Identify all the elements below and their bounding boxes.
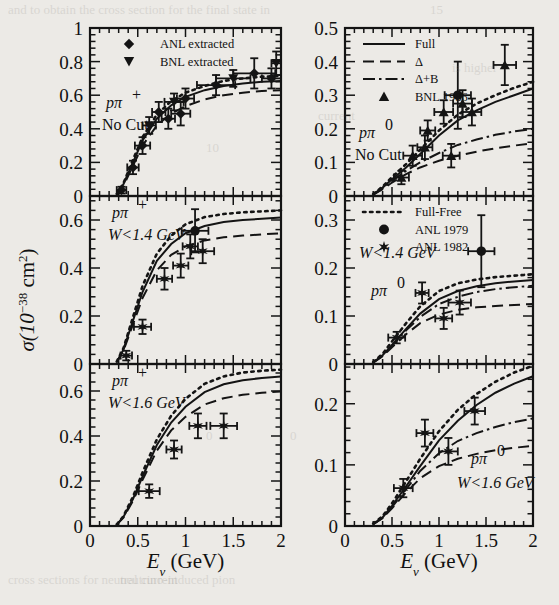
panel-channel-sup: 0: [497, 442, 505, 459]
data-point: [189, 414, 206, 439]
y-tick-label: 0.4: [59, 258, 83, 279]
y-tick-label: 0.2: [59, 471, 83, 492]
y-axis-label: σ(10−38 cm2): [15, 248, 40, 351]
y-tick-label: 0.4: [59, 426, 83, 447]
data-point: [117, 185, 127, 195]
x-tick-label: 0.5: [380, 530, 404, 551]
x-tick-label: 1.5: [221, 530, 245, 551]
data-point: [157, 268, 172, 290]
legend-entry: ANL extracted: [124, 37, 235, 51]
panel-channel-sup: +: [132, 86, 141, 103]
curve-full: [373, 280, 533, 363]
y-tick-label: 0.2: [314, 258, 338, 279]
data-point: [166, 441, 181, 459]
panel-cut-label: W<1.4 GeV: [108, 226, 187, 243]
curve--b: [373, 286, 533, 363]
data-point: [177, 88, 194, 108]
y-tick-label: 0: [74, 354, 84, 375]
y-tick-label: 0.3: [314, 85, 338, 106]
y-tick-label: 0: [74, 516, 84, 537]
y-tick-label: 0.6: [59, 85, 83, 106]
y-tick-label: 0: [329, 186, 339, 207]
y-tick-label: 0.3: [314, 210, 338, 231]
x-axis-label: Eν (GeV): [146, 549, 225, 579]
x-tick-label: 0.5: [126, 530, 150, 551]
data-point: [494, 45, 517, 85]
data-point: [420, 120, 435, 140]
panel-channel-label: pπ: [470, 450, 488, 468]
legend-entry: Δ: [363, 55, 423, 69]
y-tick-label: 0.2: [59, 306, 83, 327]
data-point: [443, 144, 460, 168]
legend-entry: ANL 1979: [379, 223, 468, 237]
y-tick-label: 0: [74, 186, 84, 207]
legend-label: Full: [415, 37, 436, 51]
legend-label: Δ+B: [415, 72, 438, 86]
panel-channel-sup: +: [138, 364, 147, 381]
y-tick-label: 0.8: [59, 52, 83, 73]
panel-channel-sup: 0: [397, 274, 405, 291]
marker-circle: [190, 226, 200, 236]
x-tick-label: 0: [85, 530, 95, 551]
cross-section-figure: 00.20.40.60.81ANL extractedBNL extracted…: [0, 0, 559, 605]
curve--b: [373, 418, 533, 524]
panel-p-pi-plus-w16: 00.20.40.600.511.52pπ+W<1.6 GeV: [59, 364, 286, 551]
y-tick-label: 0.5: [314, 18, 338, 39]
y-tick-label: 0.2: [314, 119, 338, 140]
curve--: [117, 391, 281, 524]
panel-p-pi-zero-w14: 00.10.20.3Full-FreeANL 1979ANL 1982W<1.4…: [314, 196, 533, 375]
x-tick-label: 0: [340, 530, 350, 551]
legend-label: Full-Free: [415, 205, 462, 219]
legend-entry: Full: [363, 37, 436, 51]
y-tick-label: 0.6: [59, 381, 83, 402]
panel-p-pi-zero-w16: 00.10.200.511.52pπ0W<1.6 GeV: [314, 364, 538, 551]
marker-triangle-down: [124, 57, 134, 66]
y-tick-label: 0.4: [59, 119, 83, 140]
y-tick-label: 0.1: [314, 152, 338, 173]
data-series-bnl-1986: [394, 45, 516, 184]
x-tick-label: 2: [528, 530, 538, 551]
marker-diamond: [124, 39, 134, 49]
x-axis-label: Eν (GeV): [399, 549, 478, 579]
panel-cut-label: W<1.6 GeV: [457, 474, 536, 491]
data-point: [416, 282, 429, 303]
data-point: [262, 68, 281, 88]
panel-cut-label: W<1.6 GeV: [108, 394, 187, 411]
panel-cut-label: W<1.4 GeV: [359, 244, 438, 261]
panel-p-pi-zero-no-cut: 00.10.20.30.40.5FullΔΔ+BBNL 1986pπ0No Cu…: [314, 18, 533, 207]
curve-full-free: [117, 76, 281, 194]
panel-frame: [90, 28, 281, 196]
data-point: [173, 254, 188, 278]
panel-p-pi-plus-no-cut: 00.20.40.60.81ANL extractedBNL extracted…: [59, 18, 281, 207]
figure-container: 00.20.40.60.81ANL extractedBNL extracted…: [0, 0, 559, 605]
data-point: [468, 215, 494, 287]
x-tick-label: 1.5: [474, 530, 498, 551]
panel-cut-label: No Cut: [355, 146, 402, 163]
panel-frame: [90, 196, 281, 364]
marker-circle: [379, 225, 389, 235]
data-point: [139, 484, 160, 498]
marker-triangle-up: [379, 92, 389, 101]
panel-cut-label: No Cut: [102, 116, 149, 133]
y-axis-label-text: σ(10−38 cm2): [15, 248, 40, 351]
y-tick-label: 0.6: [59, 210, 83, 231]
y-tick-label: 0.2: [59, 152, 83, 173]
y-tick-label: 1: [74, 18, 84, 39]
y-tick-label: 0.4: [314, 52, 338, 73]
panel-channel-label: pπ: [105, 94, 123, 112]
y-tick-label: 0: [329, 354, 339, 375]
legend-entry: Full-Free: [363, 205, 462, 219]
x-tick-label: 1: [181, 530, 191, 551]
data-series-anl-1979: [468, 215, 494, 287]
panel-channel-label: pπ: [111, 372, 129, 390]
legend-entry: Δ+B: [363, 72, 438, 86]
legend-label: BNL 1986: [415, 90, 468, 104]
panel-p-pi-plus-w14: 00.20.40.6pπ+W<1.4 GeV: [59, 196, 281, 375]
panel-frame: [345, 196, 533, 364]
panel-channel-sup: 0: [385, 116, 393, 133]
x-tick-label: 2: [276, 530, 286, 551]
panel-channel-sup: +: [138, 196, 147, 213]
y-tick-label: 0.2: [314, 394, 338, 415]
panel-channel-label: pπ: [358, 124, 376, 142]
marker-circle: [477, 246, 487, 256]
